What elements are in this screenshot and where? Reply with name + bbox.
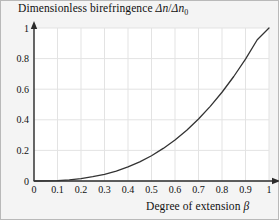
chart-svg: 00.10.20.30.40.50.60.70.80.91 00.20.40.6… (1, 1, 279, 220)
x-tick-label: 0.8 (216, 184, 229, 195)
y-tick-label: 1 (24, 23, 29, 34)
x-tick-label: 0.7 (192, 184, 205, 195)
x-axis-title: Degree of extension β (146, 200, 249, 212)
y-axis-title-text: Dimensionless birefringence (18, 2, 156, 14)
x-tick-label: 0.1 (51, 184, 64, 195)
y-tick-label: 0.8 (17, 53, 30, 64)
y-tick-label: 0.6 (17, 84, 30, 95)
x-tick-label: 0.3 (98, 184, 111, 195)
chart-plot-area: 00.10.20.30.40.50.60.70.80.91 00.20.40.6… (1, 1, 279, 220)
x-tick-label: 1 (267, 184, 272, 195)
x-tick-label: 0.4 (122, 184, 135, 195)
x-axis-title-symbol: β (243, 200, 249, 212)
figure-container: 00.10.20.30.40.50.60.70.80.91 00.20.40.6… (0, 0, 279, 220)
x-axis-title-text: Degree of extension (146, 200, 243, 212)
y-tick-label: 0.4 (17, 114, 30, 125)
y-axis-title-delta-n: Δn (156, 2, 169, 14)
x-tick-label: 0.5 (145, 184, 158, 195)
x-tick-labels: 00.10.20.30.40.50.60.70.80.91 (32, 184, 272, 195)
y-axis-title: Dimensionless birefringence Δn/Δn0 (18, 2, 188, 17)
x-tick-label: 0 (32, 184, 37, 195)
x-tick-label: 0.2 (75, 184, 88, 195)
y-tick-labels: 00.20.40.60.81 (17, 23, 30, 187)
y-tick-label: 0 (24, 176, 29, 187)
y-tick-label: 0.2 (17, 145, 30, 156)
y-axis-title-subscript: 0 (184, 8, 188, 17)
x-tick-label: 0.9 (239, 184, 252, 195)
x-tick-label: 0.6 (169, 184, 182, 195)
y-axis-title-delta-n0: Δn (172, 2, 185, 14)
